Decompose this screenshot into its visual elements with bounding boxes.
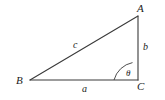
vertex-label-b: B [16, 75, 23, 86]
side-label-a: a [82, 84, 87, 94]
vertex-label-c: C [137, 81, 144, 92]
side-label-c: c [73, 40, 77, 50]
side-label-b: b [143, 42, 148, 52]
vertex-label-a: A [137, 3, 144, 14]
side-c-line [30, 16, 138, 80]
angle-label-theta: θ [126, 69, 130, 78]
triangle-figure: A B C c b a θ [0, 0, 165, 100]
